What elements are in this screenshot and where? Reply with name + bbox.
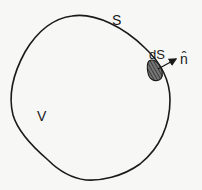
diagram-canvas: S dS n̂ V [0, 0, 202, 190]
surface-boundary [11, 15, 170, 180]
volume-label: V [37, 109, 46, 123]
normal-vector-label: n̂ [180, 52, 188, 66]
surface-element-patch [147, 60, 162, 81]
surface-label: S [112, 13, 121, 27]
surface-element-label: dS [149, 48, 165, 61]
diagram-svg [0, 0, 202, 190]
